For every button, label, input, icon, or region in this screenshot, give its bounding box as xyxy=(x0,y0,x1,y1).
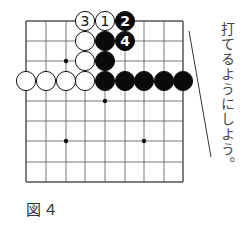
stone-move-number: 4 xyxy=(120,33,130,49)
stone-move-number: 3 xyxy=(81,13,90,29)
star-point xyxy=(64,59,68,63)
white-stone xyxy=(75,71,94,90)
star-point xyxy=(103,99,107,103)
black-stone xyxy=(95,31,114,50)
white-stone xyxy=(36,71,55,90)
black-stone-4: 4 xyxy=(115,31,134,50)
white-stone-3: 3 xyxy=(75,11,94,30)
stones: 3124 xyxy=(16,11,192,90)
black-stone xyxy=(95,71,114,90)
instruction-text: 打てるようにしよう。 xyxy=(218,22,236,172)
pointer-line xyxy=(189,31,211,157)
black-stone xyxy=(95,51,114,70)
black-stone-2: 2 xyxy=(115,11,134,30)
star-point xyxy=(64,139,68,143)
white-stone xyxy=(75,31,94,50)
black-stone xyxy=(115,71,134,90)
black-stone xyxy=(134,71,153,90)
figure-caption: 図４ xyxy=(26,198,60,219)
white-stone xyxy=(56,71,75,90)
stone-move-number: 1 xyxy=(101,13,110,29)
white-stone xyxy=(75,51,94,70)
stone-move-number: 2 xyxy=(120,13,130,29)
black-stone xyxy=(173,71,192,90)
black-stone xyxy=(154,71,173,90)
white-stone-1: 1 xyxy=(95,11,114,30)
white-stone xyxy=(16,71,35,90)
star-point xyxy=(142,139,146,143)
